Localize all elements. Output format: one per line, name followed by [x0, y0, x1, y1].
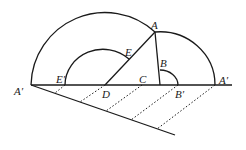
label-A-prime-left: A′ — [13, 85, 24, 97]
segment-DA — [105, 32, 155, 85]
dotted-parallel-3 — [106, 85, 142, 111]
label-B: B — [160, 57, 167, 69]
diagram: A A′ A′ B B′ C D E E′ — [0, 0, 246, 150]
label-A: A — [150, 19, 158, 31]
dotted-parallel-4 — [131, 85, 178, 120]
label-D: D — [101, 88, 110, 100]
dotted-parallel-1 — [55, 85, 65, 93]
arc-large-left — [31, 13, 155, 85]
dotted-parallel-5 — [157, 85, 215, 129]
label-A-prime-right: A′ — [218, 74, 229, 86]
label-E-prime: E′ — [55, 73, 66, 85]
label-C: C — [139, 73, 147, 85]
arc-inner — [65, 49, 129, 85]
arc-small — [160, 70, 178, 85]
label-E: E — [124, 46, 132, 58]
label-B-prime: B′ — [175, 88, 185, 100]
